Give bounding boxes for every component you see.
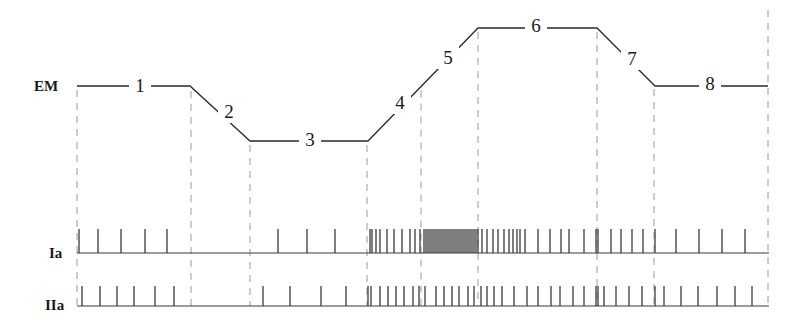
em-trace-line bbox=[77, 28, 768, 141]
phase-label-2: 2 bbox=[224, 101, 234, 122]
iia-spike-train bbox=[77, 286, 769, 306]
phase-label-5: 5 bbox=[443, 47, 453, 68]
phase-label-6: 6 bbox=[531, 15, 541, 36]
ia-spike-train bbox=[77, 229, 769, 253]
row-label-em: EM bbox=[34, 78, 58, 94]
phase-label-1: 1 bbox=[135, 75, 145, 96]
row-label-ia: Ia bbox=[49, 245, 63, 261]
phase-label-8: 8 bbox=[705, 73, 715, 94]
phase-boundary-guides bbox=[77, 10, 768, 306]
phase-label-3: 3 bbox=[305, 129, 315, 150]
em-ia-iia-diagram: 12345678 EM Ia IIa bbox=[0, 0, 804, 333]
row-label-iia: IIa bbox=[45, 297, 65, 313]
phase-label-7: 7 bbox=[627, 48, 637, 69]
phase-label-4: 4 bbox=[395, 92, 405, 113]
